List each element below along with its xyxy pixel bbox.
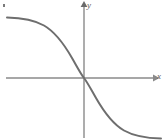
x-axis-label: x (157, 72, 161, 81)
corner-mark (3, 4, 5, 7)
graph-figure: y x (0, 0, 164, 140)
graph-canvas (0, 0, 164, 140)
y-axis-label: y (87, 1, 91, 10)
